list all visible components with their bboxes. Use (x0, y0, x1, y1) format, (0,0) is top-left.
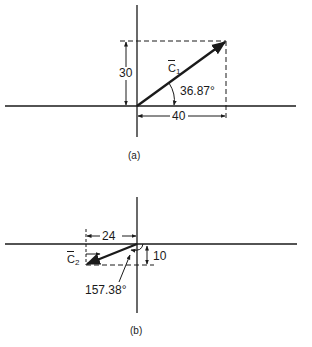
vector-subscript: 2 (75, 258, 79, 267)
angle-label-b: 157.38° (85, 284, 127, 296)
angle-leader-b (119, 255, 130, 282)
dimension-label-10: 10 (153, 250, 166, 262)
angle-label-a: 36.87° (180, 85, 215, 97)
caption-a: (a) (128, 151, 140, 161)
dimension-label-30: 30 (119, 67, 132, 79)
vector-symbol: C (168, 62, 176, 74)
vector-c2-label: C2 (67, 254, 79, 268)
dimension-label-24: 24 (102, 230, 115, 242)
phasor-diagrams (0, 0, 312, 347)
vector-c1-label: C1 (168, 63, 180, 77)
vector-subscript: 1 (176, 67, 180, 76)
caption-b: (b) (130, 326, 142, 336)
angle-arc-a (169, 83, 174, 105)
overbar (67, 251, 74, 252)
overbar (168, 60, 175, 61)
figure-a (5, 5, 296, 137)
dimension-label-40: 40 (172, 110, 185, 122)
vector-symbol: C (67, 253, 75, 265)
figure-b (5, 197, 297, 313)
